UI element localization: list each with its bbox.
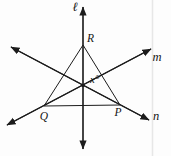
vertex-label-R: R bbox=[86, 32, 94, 44]
line-label-n: n bbox=[153, 109, 159, 123]
line-m-reverse bbox=[7, 49, 151, 125]
vertex-label-Q: Q bbox=[40, 110, 49, 122]
angle-x-label: x° bbox=[89, 73, 100, 85]
line-label-l: ℓ bbox=[72, 0, 77, 14]
line-n-reverse bbox=[11, 47, 149, 120]
triangle-qrp bbox=[44, 45, 120, 106]
intersection-dot bbox=[81, 84, 84, 87]
vertex-label-P: P bbox=[113, 106, 121, 118]
geometry-figure: ℓmnRQPx° bbox=[0, 0, 171, 156]
figure-canvas: ℓmnRQPx° bbox=[0, 0, 171, 156]
line-label-m: m bbox=[152, 50, 161, 64]
